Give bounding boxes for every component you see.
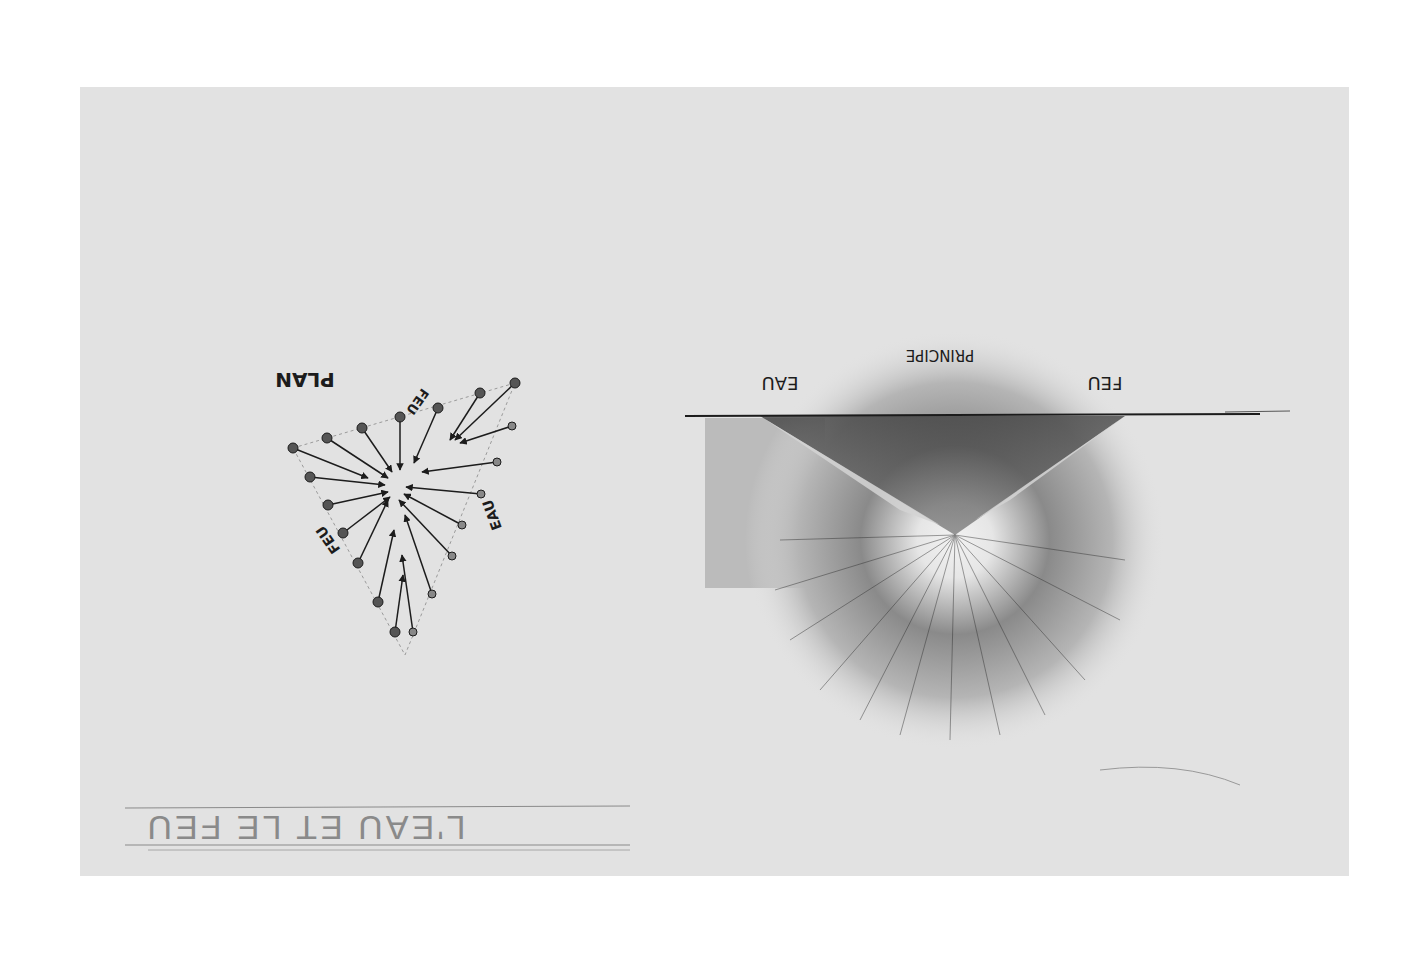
section-drawing: EAU FEU PRINCIPE (685, 330, 1290, 785)
label-eau-section: EAU (762, 373, 799, 394)
title-block: L'EAU ET LE FEU (125, 806, 630, 850)
label-principe: PRINCIPE (906, 346, 975, 364)
label-feu-plan-top: FEU (403, 386, 432, 418)
label-feu-plan-left: FEU (313, 523, 344, 557)
label-feu-section: FEU (1088, 373, 1123, 394)
label-plan: PLAN (275, 368, 335, 392)
title-text: L'EAU ET LE FEU (144, 809, 465, 847)
faint-curve (1100, 767, 1240, 785)
label-eau-plan: EAU (479, 498, 505, 533)
drawing-canvas: EAU FEU PRINCIPE PLA (0, 0, 1419, 954)
ground-line (685, 414, 1260, 416)
ground-line-tail (1225, 411, 1290, 412)
plan-drawing: PLAN FEU EAU FEU (275, 368, 520, 655)
plan-triangle (293, 383, 515, 655)
